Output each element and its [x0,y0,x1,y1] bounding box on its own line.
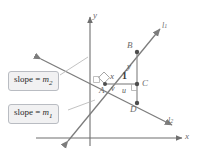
point-label-b: B [127,41,133,50]
point-b-dot [135,50,139,54]
segment-label-x: x [110,72,114,81]
segment-label-y: y [127,62,131,71]
leader-line-m1 [68,100,95,110]
y-axis-label: y [93,11,97,20]
line-label-l1: l1 [162,22,167,30]
segment-label-u: u [122,87,126,95]
leader-line-m2 [60,57,88,75]
segment-label-v: v [111,85,115,93]
callout-m1-text: slope = [14,107,43,117]
callout-slope-m1: slope = m1 [8,104,59,124]
line-label-l2: l2 [168,117,173,125]
point-label-c: C [142,79,148,88]
point-label-a: A [99,86,105,95]
line-l2 [41,59,172,125]
callout-m2-sub: 2 [49,79,53,87]
callout-m2-text: slope = [14,74,43,84]
callout-m1-sub: 1 [49,112,53,120]
x-axis-label: x [185,132,189,141]
callout-slope-m2: slope = m2 [8,71,59,91]
segment-label-one: 1 [122,71,127,81]
point-c-dot [135,82,139,86]
right-angle-marker-a [99,72,110,83]
geometry-figure: x y l1 l2 A B C D x 1 y v u slope = m2 s… [0,0,203,155]
point-label-d: D [130,105,137,114]
